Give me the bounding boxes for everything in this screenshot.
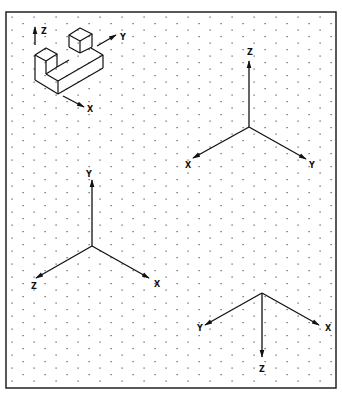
middle-left-y-label: Y [85, 170, 92, 179]
top-right-y-label: Y [308, 161, 315, 170]
bottom-right-x-label: X [325, 324, 332, 333]
block-y-label: Y [119, 33, 126, 42]
top-right-x-label: X [185, 161, 192, 170]
isometric-axes-diagram: Z Y X Z X Y Y Z X Z Y X [0, 0, 342, 395]
bottom-right-y-label: Y [196, 324, 203, 333]
top-right-z-label: Z [247, 48, 253, 57]
middle-left-z-label: Z [31, 282, 37, 291]
bottom-right-z-label: Z [259, 365, 265, 374]
block-x-label: X [87, 105, 94, 114]
middle-left-x-label: X [154, 280, 161, 289]
block-z-label: Z [41, 27, 47, 36]
